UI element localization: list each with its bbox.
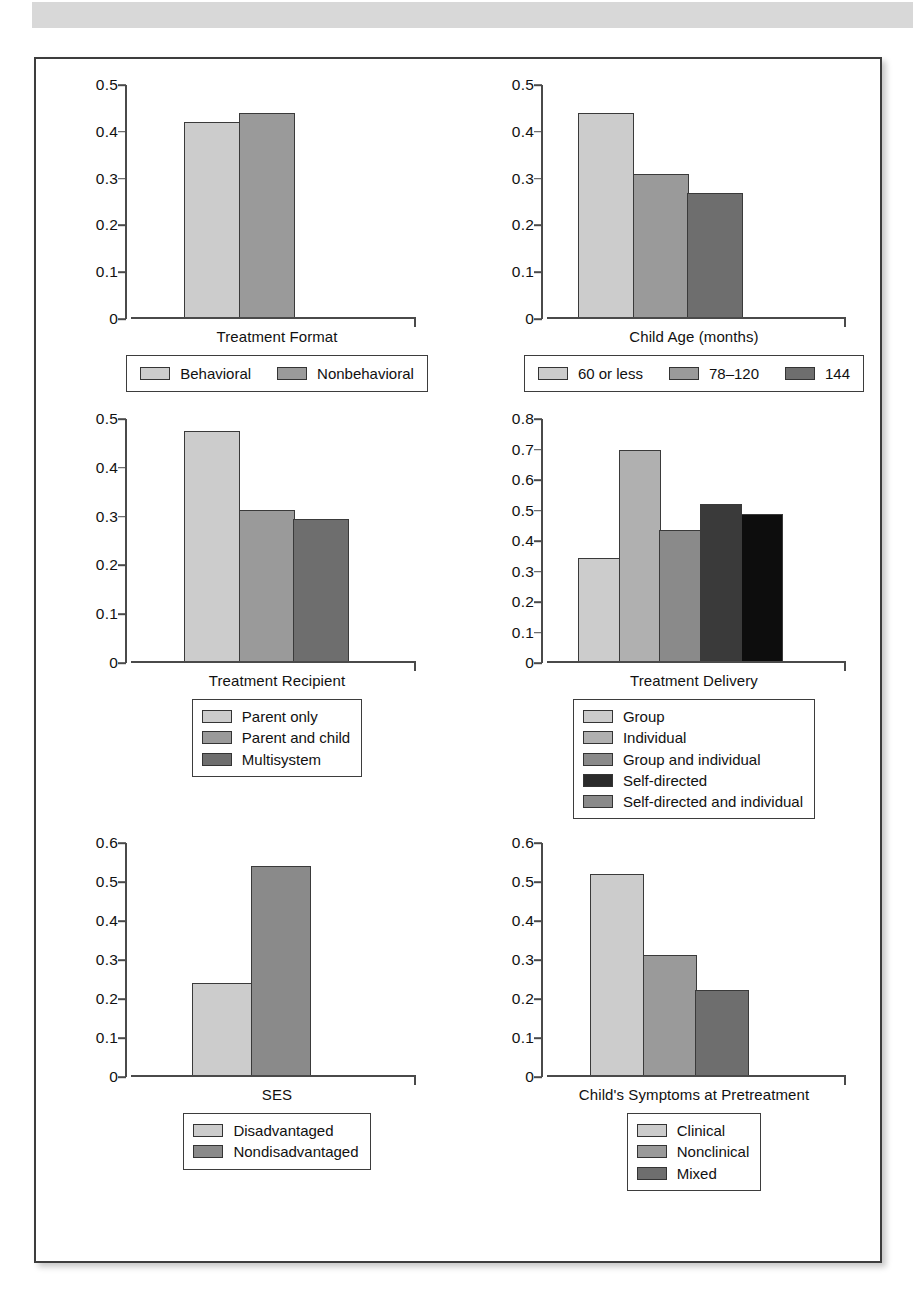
y-axis-tick-mark [118,271,126,273]
y-axis-tick-label: 0.3 [512,951,534,969]
legend-treatment-recipient: Parent onlyParent and childMultisystem [192,699,362,777]
y-axis-tick-label: 0 [525,310,534,328]
y-axis-tick-label: 0.1 [512,624,534,642]
y-axis-tick-mark [534,842,542,844]
y-axis-tick-label: 0.5 [96,76,118,94]
legend-swatch-icon [583,795,613,808]
bar-individual [619,450,661,663]
legend-label: Clinical [677,1120,725,1141]
x-axis-end-tick [844,318,846,327]
y-axis-tick-label: 0.3 [96,951,118,969]
legend-swatch-icon [583,753,613,766]
chart-treatment-format: 0.50.40.30.20.10Treatment FormatBehavior… [36,59,458,392]
y-axis-tick-label: 0.5 [512,76,534,94]
bar-group [578,558,620,663]
bar-group-and-individual [659,530,701,663]
legend-swatch-icon [637,1167,667,1180]
legend-label: Individual [623,727,686,748]
legend-item: Parent only [202,706,350,727]
y-axis-tick-label: 0.4 [512,912,534,930]
y-axis-tick-mark [534,225,542,227]
y-axis-tick-label: 0.5 [512,502,534,520]
x-axis-line [547,1075,846,1077]
legend-treatment-delivery: GroupIndividualGroup and individualSelf-… [573,699,815,819]
y-axis-tick-mark [534,959,542,961]
y-axis-tick-label: 0.7 [512,441,534,459]
y-axis-tick-label: 0 [109,1068,118,1086]
legend-swatch-icon [785,367,815,380]
legend-swatch-icon [538,367,568,380]
legend-swatch-icon [193,1124,223,1137]
y-axis-tick-label: 0.1 [512,263,534,281]
x-axis-line [547,317,846,319]
legend-wrapper: Parent onlyParent and childMultisystem [36,699,458,777]
chart-child-symptoms: 0.60.50.40.30.20.10Child's Symptoms at P… [458,821,880,1191]
y-axis-line [125,85,127,319]
x-axis-line [131,1075,416,1077]
y-axis-tick-mark [118,959,126,961]
bar-clinical [590,874,644,1077]
y-axis-tick-mark [118,613,126,615]
y-axis-tick-mark [534,178,542,180]
legend-label: Group and individual [623,749,761,770]
legend-label: 144 [825,363,850,384]
chart-panel-child-symptoms: 0.60.50.40.30.20.10Child's Symptoms at P… [458,821,880,1261]
legend-label: Disadvantaged [233,1120,333,1141]
x-axis-end-tick [844,1076,846,1085]
chart-ses: 0.60.50.40.30.20.10SESDisadvantagedNondi… [36,821,458,1170]
y-axis-tick-mark [118,1076,126,1078]
y-axis-tick-label: 0.1 [512,1029,534,1047]
legend-label: Multisystem [242,749,321,770]
legend-item: Nonbehavioral [277,363,414,384]
y-axis-tick-label: 0.6 [512,471,534,489]
bar-series [548,85,850,319]
plot-area: 0.50.40.30.20.10 [36,85,458,319]
y-axis: 0.50.40.30.20.10 [470,85,548,319]
chart-caption: Treatment Recipient [36,672,458,689]
y-axis-tick-mark [534,998,542,1000]
y-axis-tick-mark [118,418,126,420]
chart-treatment-delivery: 0.80.70.60.50.40.30.20.10Treatment Deliv… [458,403,880,819]
legend-item: Group and individual [583,749,803,770]
bar-60-or-less [578,113,634,319]
chart-panel-treatment-format: 0.50.40.30.20.10Treatment FormatBehavior… [36,59,458,403]
figure-frame: 0.50.40.30.20.10Treatment FormatBehavior… [34,57,882,1263]
legend-swatch-icon [583,731,613,744]
x-axis-line [547,661,846,663]
chart-treatment-recipient: 0.50.40.30.20.10Treatment RecipientParen… [36,403,458,777]
chart-caption: Treatment Format [36,328,458,345]
y-axis: 0.60.50.40.30.20.10 [470,843,548,1077]
legend-wrapper: BehavioralNonbehavioral [36,355,458,392]
legend-item: Self-directed [583,770,803,791]
legend-swatch-icon [140,367,170,380]
y-axis-tick-mark [118,881,126,883]
y-axis-tick-label: 0.6 [96,834,118,852]
legend-item: Nondisadvantaged [193,1141,358,1162]
y-axis-tick-mark [534,662,542,664]
y-axis-tick-label: 0.4 [96,912,118,930]
bar-parent-and-child [239,510,295,663]
y-axis-tick-label: 0.1 [96,1029,118,1047]
y-axis-tick-label: 0 [525,654,534,672]
y-axis-tick-label: 0.8 [512,410,534,428]
legend-swatch-icon [193,1145,223,1158]
chart-caption: Child Age (months) [458,328,880,345]
y-axis-tick-label: 0.2 [512,216,534,234]
y-axis-tick-mark [534,1076,542,1078]
y-axis-tick-label: 0.4 [512,532,534,550]
chart-panel-child-age: 0.50.40.30.20.10Child Age (months)60 or … [458,59,880,403]
legend-label: Parent only [242,706,318,727]
legend-label: 78–120 [709,363,759,384]
x-axis-end-tick [414,1076,416,1085]
y-axis-tick-label: 0.3 [512,170,534,188]
y-axis-tick-label: 0.6 [512,834,534,852]
legend-item: Nonclinical [637,1141,750,1162]
legend-child-symptoms: ClinicalNonclinicalMixed [627,1113,762,1191]
y-axis-tick-mark [534,881,542,883]
legend-swatch-icon [277,367,307,380]
y-axis-tick-mark [534,632,542,634]
legend-item: Disadvantaged [193,1120,358,1141]
y-axis-tick-label: 0.4 [512,123,534,141]
bar-144 [687,193,743,319]
chart-panel-treatment-recipient: 0.50.40.30.20.10Treatment RecipientParen… [36,403,458,821]
